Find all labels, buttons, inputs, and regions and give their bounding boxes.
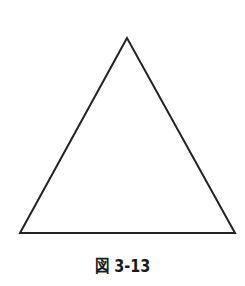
- figure: 図 3-13: [0, 0, 245, 286]
- figure-caption: 図 3-13: [18, 252, 226, 277]
- triangle-shape: [0, 0, 245, 286]
